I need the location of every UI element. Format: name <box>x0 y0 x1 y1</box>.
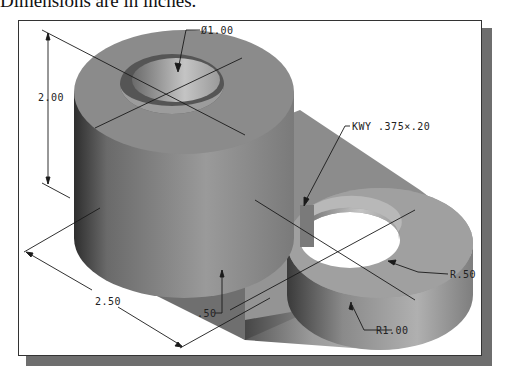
outer-radius-label: R1.00 <box>376 325 409 336</box>
bore-diameter-label: Ø1.00 <box>201 25 234 36</box>
keyway-label: KWY .375×.20 <box>352 121 430 132</box>
isometric-part-drawing: 2.00 Ø1.00 KWY .375×.20 R.50 R1.00 2.50 … <box>0 0 512 384</box>
height-dim-label: 2.00 <box>38 92 64 103</box>
inner-radius-label: R.50 <box>450 269 476 280</box>
thickness-dim-label: .50 <box>197 308 217 319</box>
main-cylinder <box>74 30 294 298</box>
keyway-slot <box>300 205 314 247</box>
length-dim-label: 2.50 <box>95 296 121 307</box>
